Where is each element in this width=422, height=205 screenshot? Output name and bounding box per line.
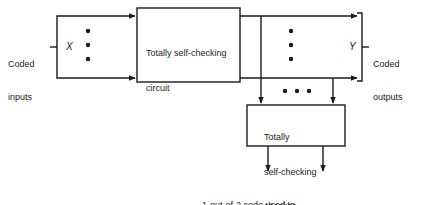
coded-inputs-label: Coded inputs (8, 37, 35, 125)
diagram-canvas: Coded inputs X Y Coded outputs Totally s… (0, 0, 422, 205)
input-ellipsis-dots (86, 29, 90, 61)
output-bracket (357, 13, 369, 81)
checker-ellipsis-dots (283, 89, 311, 93)
output-signal-label: Y (349, 41, 356, 52)
tsc-circuit-line1: Totally self-checking (146, 48, 227, 60)
caption-line1: 1-out-of-2 code used to (202, 199, 306, 205)
coded-outputs-label: Coded outputs (373, 37, 403, 125)
coded-inputs-line1: Coded (8, 59, 35, 70)
coded-outputs-line1: Coded (373, 59, 403, 70)
error-code-caption: 1-out-of-2 code used to indicate an erro… (202, 175, 306, 205)
tsc-circuit-label: Totally self-checking circuit (146, 25, 227, 117)
input-bracket (50, 16, 62, 78)
tsc-circuit-line2: circuit (146, 83, 227, 95)
coded-outputs-line2: outputs (373, 92, 403, 103)
coded-inputs-line2: inputs (8, 92, 35, 103)
tsc-checker-line1: Totally (264, 132, 317, 144)
output-ellipsis-dots (289, 29, 293, 61)
input-signal-label: X (66, 41, 73, 52)
